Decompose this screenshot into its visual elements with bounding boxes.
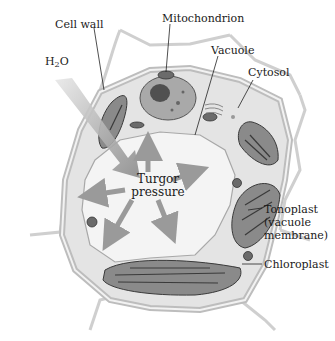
plant-cell-diagram: Cell wall Mitochondrion H2O Vacuole Cyto… bbox=[0, 0, 335, 341]
label-chloroplast: Chloroplast bbox=[264, 258, 329, 271]
nucleus bbox=[140, 76, 196, 120]
mitochondrion bbox=[158, 71, 174, 79]
chloroplast-bottom bbox=[103, 260, 241, 295]
label-mitochondrion: Mitochondrion bbox=[162, 12, 244, 25]
label-vacuole: Vacuole bbox=[211, 44, 254, 57]
label-turgor-pressure: Turgor pressure bbox=[128, 173, 188, 199]
label-cytosol: Cytosol bbox=[248, 66, 289, 79]
label-tonoplast: Tonoplast (vacuole membrane) bbox=[264, 203, 328, 242]
label-cell-wall: Cell wall bbox=[55, 18, 103, 31]
cell-illustration bbox=[0, 0, 335, 341]
label-h2o: H2O bbox=[45, 55, 69, 71]
